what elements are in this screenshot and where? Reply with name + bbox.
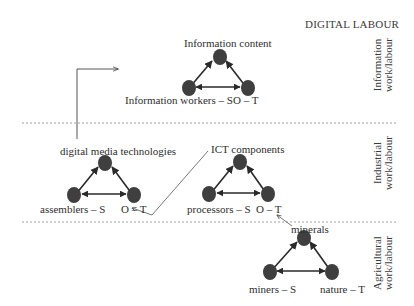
triangle-agricultural xyxy=(263,230,339,280)
label-miners: miners – S xyxy=(249,283,296,295)
l-arrow-to-information xyxy=(77,69,118,139)
label-minerals: minerals xyxy=(291,223,329,235)
digital-labour-diagram: DIGITAL LABOUR Information work/labour I… xyxy=(0,0,414,306)
layer-label-agricultural: Agricultural work/labour xyxy=(372,223,398,303)
triangle-assemblers xyxy=(67,155,141,203)
label-assemblers: assemblers – S xyxy=(40,203,105,215)
label-processors-ot: O – T xyxy=(256,203,281,215)
layer-label-industrial: Industrial work/labour xyxy=(372,123,398,203)
label-processors: processors – S xyxy=(187,203,251,215)
minerals-to-processors-arrow xyxy=(277,215,292,226)
label-digital-media-technologies: digital media technologies xyxy=(60,145,176,157)
label-nature: nature – T xyxy=(320,283,365,295)
label-assemblers-ot: O – T xyxy=(121,203,146,215)
layer-label-information: Information work/labour xyxy=(372,25,398,105)
label-ict-components: ICT components xyxy=(211,143,284,155)
label-information-ot: O – T xyxy=(233,94,258,106)
triangle-information xyxy=(182,49,255,96)
label-information-workers: Information workers – S xyxy=(125,94,233,106)
triangle-processors xyxy=(202,154,275,202)
label-information-content: Information content xyxy=(184,37,272,49)
